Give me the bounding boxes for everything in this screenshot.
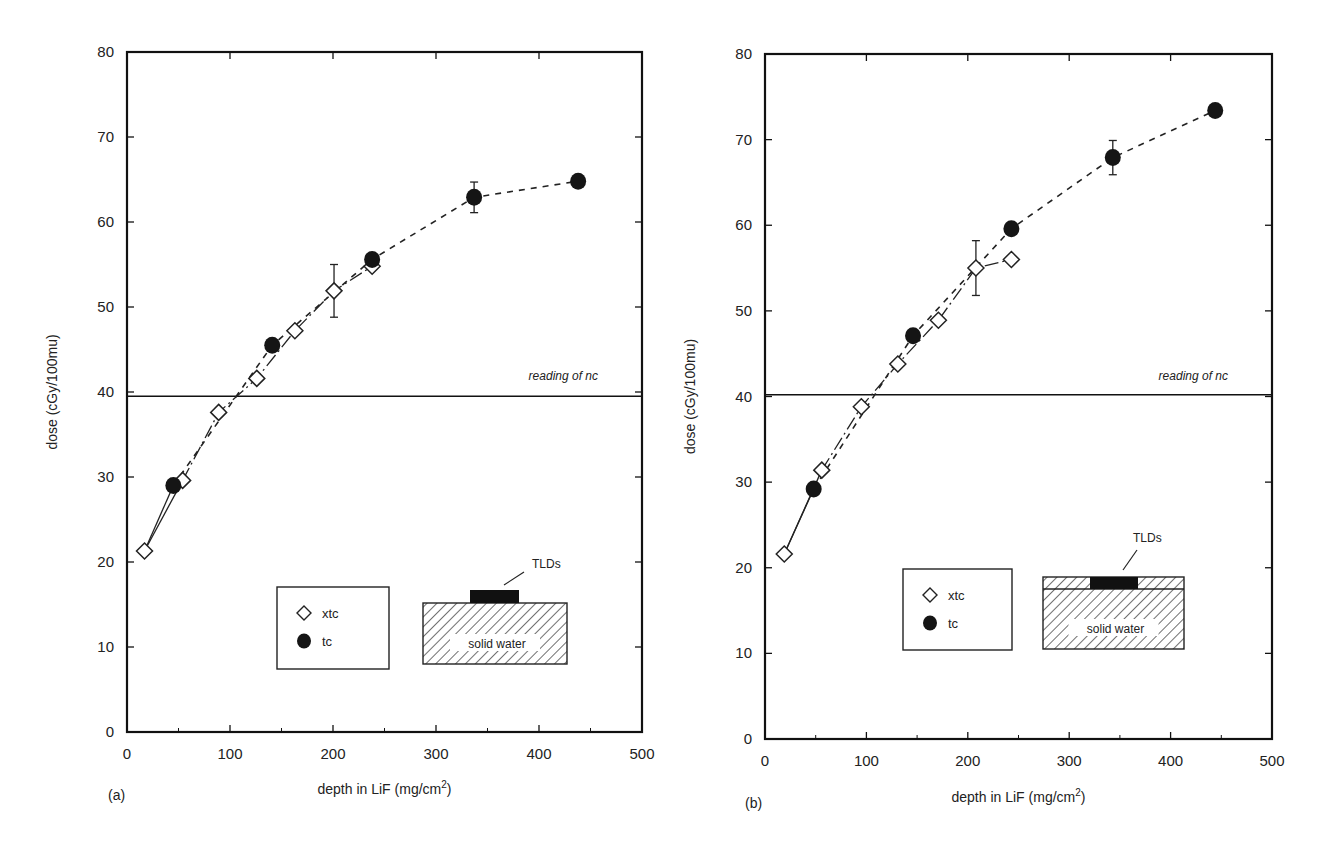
legend-box (277, 587, 389, 669)
x-tick-label: 500 (1259, 752, 1284, 769)
y-tick-label: 20 (97, 553, 114, 570)
solid-water-label: solid water (1087, 622, 1144, 636)
chart-panel-a: 010020030040050001020304050607080dose (c… (44, 43, 655, 803)
y-tick-label: 10 (735, 644, 752, 661)
tc-line-dashed (173, 181, 578, 485)
x-tick-label: 400 (526, 745, 551, 762)
legend: xtctc (277, 587, 389, 669)
legend-tc-label: tc (322, 634, 333, 649)
chart-panel-b: 010020030040050001020304050607080dose (c… (682, 45, 1285, 811)
tc-marker (264, 337, 280, 354)
y-tick-label: 60 (735, 216, 752, 233)
y-tick-label: 40 (735, 388, 752, 405)
tld-element (470, 590, 519, 603)
y-tick-label: 70 (97, 128, 114, 145)
x-tick-label: 0 (761, 752, 769, 769)
y-tick-label: 80 (735, 45, 752, 62)
y-tick-label: 80 (97, 43, 114, 60)
legend: xtctc (903, 569, 1012, 650)
solid-water-label: solid water (468, 637, 525, 651)
tc-marker (1105, 149, 1121, 166)
figure: 010020030040050001020304050607080dose (c… (0, 0, 1329, 855)
x-tick-label: 300 (1057, 752, 1082, 769)
tc-marker (165, 477, 181, 494)
x-axis-title: depth in LiF (mg/cm2) (952, 787, 1086, 805)
xtc-line-dashdot (822, 260, 1012, 471)
tld-label: TLDs (1133, 531, 1162, 545)
xtc-marker (776, 546, 792, 562)
tc-marker (570, 173, 586, 190)
y-tick-label: 30 (735, 473, 752, 490)
reference-line-label: reading of nc (1159, 369, 1228, 383)
tld-element (1090, 577, 1138, 589)
y-tick-label: 0 (106, 723, 114, 740)
tld-leader-line (1123, 550, 1137, 570)
y-tick-label: 10 (97, 638, 114, 655)
xtc-marker (326, 283, 342, 299)
y-tick-label: 70 (735, 131, 752, 148)
tld-setup-diagram: solid waterTLDs (423, 557, 567, 664)
tc-line-dashed (814, 111, 1216, 489)
y-tick-label: 60 (97, 213, 114, 230)
legend-xtc-label: xtc (322, 606, 339, 621)
xtc-marker (930, 312, 946, 328)
x-tick-label: 0 (123, 745, 131, 762)
y-tick-label: 30 (97, 468, 114, 485)
tc-marker (466, 189, 482, 206)
xtc-marker (137, 543, 153, 559)
y-tick-label: 20 (735, 559, 752, 576)
tc-marker (905, 327, 921, 344)
solid-water-block (423, 603, 567, 664)
x-axis-title: depth in LiF (mg/cm2) (318, 779, 452, 797)
x-tick-label: 200 (955, 752, 980, 769)
tc-line-solid (784, 489, 813, 554)
legend-xtc-label: xtc (948, 588, 965, 603)
y-tick-label: 0 (744, 730, 752, 747)
xtc-line-dashdot (183, 266, 373, 480)
y-tick-label: 40 (97, 383, 114, 400)
panel-label: (a) (108, 787, 125, 803)
xtc-marker (814, 462, 830, 478)
x-tick-label: 100 (854, 752, 879, 769)
reference-line-label: reading of nc (529, 369, 598, 383)
legend-tc-icon (923, 616, 937, 631)
x-tick-label: 400 (1158, 752, 1183, 769)
tld-setup-diagram: solid waterTLDs (1043, 531, 1184, 649)
tc-marker (1207, 102, 1223, 119)
legend-tc-icon (297, 634, 311, 649)
y-tick-label: 50 (97, 298, 114, 315)
tc-marker (364, 251, 380, 268)
legend-tc-label: tc (948, 616, 959, 631)
tc-line-solid (145, 486, 174, 551)
x-tick-label: 500 (629, 745, 654, 762)
y-tick-label: 50 (735, 302, 752, 319)
tld-label: TLDs (532, 557, 561, 571)
y-axis-title: dose (cGy/100mu) (44, 334, 60, 449)
plot-frame (765, 54, 1272, 739)
panel-label: (b) (745, 795, 762, 811)
tld-leader-line (504, 572, 524, 585)
x-tick-label: 200 (320, 745, 345, 762)
x-tick-label: 300 (423, 745, 448, 762)
legend-box (903, 569, 1012, 650)
xtc-marker (1003, 252, 1019, 268)
tc-marker (806, 480, 822, 497)
tc-marker (1003, 220, 1019, 237)
x-tick-label: 100 (217, 745, 242, 762)
y-axis-title: dose (cGy/100mu) (682, 339, 698, 454)
